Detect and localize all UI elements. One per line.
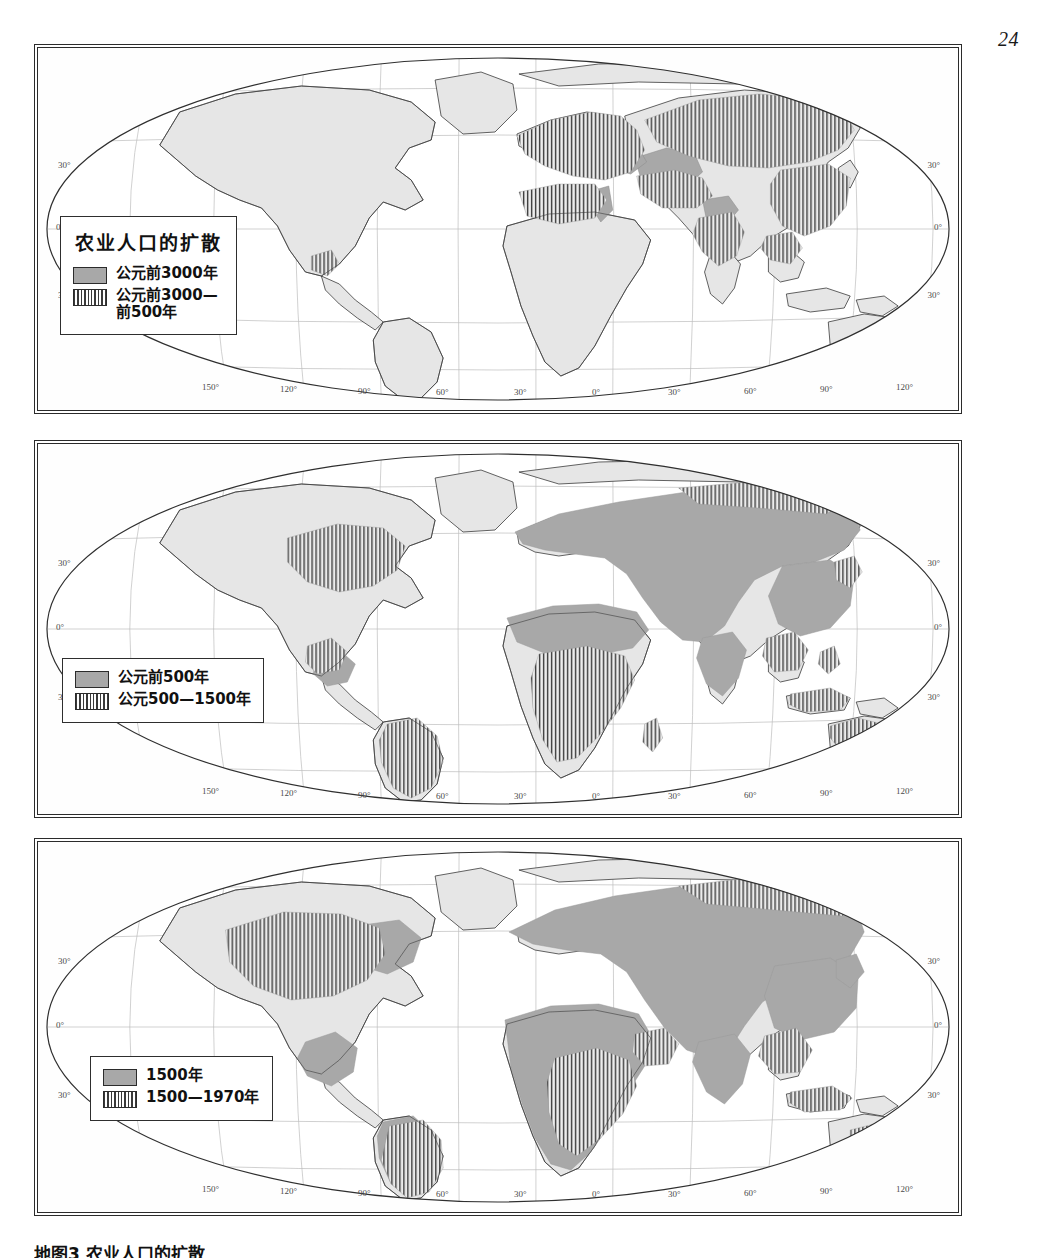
map-2-lon-label-6: 30° [668, 791, 681, 801]
map-2-lat-label-eq: 0° [56, 622, 64, 632]
page-number: 24 [998, 28, 1019, 51]
map-2-canvas: 30° 0° 30° 30° 0° 30° 150° 120° 90° 60° … [40, 446, 956, 812]
map-2-lat-label-n30-right: 30° [927, 558, 940, 568]
map-2-legend: 公元前500年 公元500—1500年 [62, 658, 264, 723]
map-1-lon-label-1: 120° [280, 384, 297, 394]
map-3-lon-label-0: 150° [202, 1184, 219, 1194]
map-3-legend: 1500年 1500—1970年 [90, 1056, 273, 1121]
map-2-lon-label-7: 60° [744, 790, 757, 800]
map-2-lat-label-n30: 30° [58, 558, 71, 568]
legend-swatch-solid-icon [73, 267, 107, 284]
map-2-lon-label-8: 90° [820, 788, 833, 798]
map-2-lon-label-5: 0° [592, 791, 600, 801]
map-2-graphic [40, 446, 956, 812]
map-1-lon-label-9: 120° [896, 382, 913, 392]
legend-swatch-solid-icon [75, 671, 109, 688]
map-3-lon-label-5: 0° [592, 1189, 600, 1199]
map-1-lat-label-n30-right: 30° [927, 160, 940, 170]
map-1-legend-label-0: 公元前3000年 [116, 265, 218, 282]
map-3-legend-label-0: 1500年 [146, 1067, 203, 1084]
map-1-legend-entry-0: 公元前3000年 [73, 265, 224, 284]
map-1-lat-label-eq-right: 0° [934, 222, 942, 232]
map-1-lon-label-0: 150° [202, 382, 219, 392]
map-2-lon-label-1: 120° [280, 788, 297, 798]
map-3-lon-label-6: 30° [668, 1189, 681, 1199]
map-3-legend-entry-0: 1500年 [103, 1067, 260, 1086]
map-3-canvas: 30° 0° 30° 30° 0° 30° 150° 120° 90° 60° … [40, 844, 956, 1210]
map-3-lat-label-s30: 30° [58, 1090, 71, 1100]
map-1-legend-label-1: 公元前3000— 前500年 [116, 287, 218, 322]
legend-swatch-solid-icon [103, 1069, 137, 1086]
map-1-lon-label-2: 90° [358, 386, 371, 396]
map-1-lon-label-8: 90° [820, 384, 833, 394]
map-3-lat-label-eq: 0° [56, 1020, 64, 1030]
map-3-lat-label-n30-right: 30° [927, 956, 940, 966]
map-1-lat-label-n30: 30° [58, 160, 71, 170]
map-3-lon-label-1: 120° [280, 1186, 297, 1196]
map-2-lat-label-eq-right: 0° [934, 622, 942, 632]
map-3-lon-label-9: 120° [896, 1184, 913, 1194]
map-3-legend-label-1: 1500—1970年 [146, 1089, 260, 1106]
map-3-lon-label-8: 90° [820, 1186, 833, 1196]
map-1-lon-label-5: 0° [592, 387, 600, 397]
map-1-lon-label-7: 60° [744, 386, 757, 396]
map-2-legend-entry-0: 公元前500年 [75, 669, 251, 688]
map-panel-3: 30° 0° 30° 30° 0° 30° 150° 120° 90° 60° … [34, 838, 962, 1216]
map-1-legend-entry-1: 公元前3000— 前500年 [73, 287, 224, 322]
map-2-lon-label-3: 60° [436, 791, 449, 801]
map-2-lon-label-2: 90° [358, 790, 371, 800]
map-2-legend-entry-1: 公元500—1500年 [75, 691, 251, 710]
legend-swatch-hatch-icon [75, 693, 109, 710]
map-3-lon-label-2: 90° [358, 1188, 371, 1198]
map-1-lon-label-6: 30° [668, 387, 681, 397]
map-3-lon-label-7: 60° [744, 1188, 757, 1198]
map-2-legend-label-0: 公元前500年 [118, 669, 209, 686]
map-3-lon-label-3: 60° [436, 1189, 449, 1199]
legend-swatch-hatch-icon [103, 1091, 137, 1108]
map-3-lon-label-4: 30° [514, 1189, 527, 1199]
map-1-lat-label-s30-right: 30° [927, 290, 940, 300]
map-2-lon-label-9: 120° [896, 786, 913, 796]
map-1-legend: 农业人口的扩散 公元前3000年 公元前3000— 前500年 [60, 216, 237, 335]
map-1-legend-title: 农业人口的扩散 [75, 228, 222, 255]
map-2-legend-label-1: 公元500—1500年 [118, 691, 251, 708]
map-3-graphic [40, 844, 956, 1210]
map-3-legend-entry-1: 1500—1970年 [103, 1089, 260, 1108]
legend-swatch-hatch-icon [73, 289, 107, 306]
map-2-lon-label-4: 30° [514, 791, 527, 801]
map-3-lat-label-eq-right: 0° [934, 1020, 942, 1030]
figure-caption: 地图3 农业人口的扩散 [34, 1240, 205, 1258]
map-3-lat-label-s30-right: 30° [927, 1090, 940, 1100]
map-2-lat-label-s30-right: 30° [927, 692, 940, 702]
map-panel-2: 30° 0° 30° 30° 0° 30° 150° 120° 90° 60° … [34, 440, 962, 818]
map-1-lon-label-3: 60° [436, 387, 449, 397]
map-2-lon-label-0: 150° [202, 786, 219, 796]
map-1-lon-label-4: 30° [514, 387, 527, 397]
map-3-lat-label-n30: 30° [58, 956, 71, 966]
